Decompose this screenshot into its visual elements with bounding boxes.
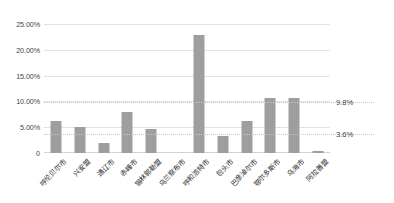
y-axis-tick-label: 20.00% xyxy=(16,45,40,54)
x-axis-labels: 呼伦贝尔市兴安盟通辽市赤峰市锡林郭勒盟乌兰察布市呼和浩特市包头市巴彦淖尔市鄂尔多… xyxy=(44,155,330,203)
bar-chart: 05.00%10.00%15.00%20.00%25.00% 9.8%3.6% … xyxy=(0,0,394,203)
reference-line xyxy=(44,134,374,135)
y-axis-tick-label: 15.00% xyxy=(16,71,40,80)
bar[interactable] xyxy=(98,143,109,153)
reference-line-label: 9.8% xyxy=(336,98,353,107)
bar[interactable] xyxy=(313,151,324,153)
plot-area: 05.00%10.00%15.00%20.00%25.00% xyxy=(44,24,330,153)
y-axis-tick-label: 25.00% xyxy=(16,20,40,29)
bar[interactable] xyxy=(74,127,85,153)
reference-line xyxy=(44,102,374,103)
bar[interactable] xyxy=(289,98,300,153)
y-axis-tick-label: 10.00% xyxy=(16,97,40,106)
bar[interactable] xyxy=(146,129,157,153)
bar[interactable] xyxy=(217,136,228,153)
bar[interactable] xyxy=(241,121,252,154)
y-axis-tick-label: 0 xyxy=(36,149,40,158)
bar[interactable] xyxy=(50,121,61,154)
bar[interactable] xyxy=(122,112,133,153)
bar[interactable] xyxy=(265,98,276,153)
reference-line-label: 3.6% xyxy=(336,130,353,139)
y-axis-tick-label: 5.00% xyxy=(20,123,40,132)
